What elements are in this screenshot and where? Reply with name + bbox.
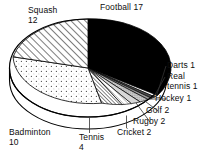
slice-label-badminton: Badminton 10 xyxy=(9,128,51,147)
slice-label-rugby: Rugby 2 xyxy=(133,117,165,127)
pie-chart: Football 17 Squash 12 Badminton 10 Tenni… xyxy=(0,0,211,161)
slice-label-darts: Darts 1 xyxy=(167,61,195,71)
slice-label-squash: Squash 12 xyxy=(28,6,57,25)
slice-label-football: Football 17 xyxy=(100,3,143,13)
slice-label-hockey: Hockey 1 xyxy=(155,94,191,104)
slice-label-golf: Golf 2 xyxy=(146,106,169,116)
slice-label-cricket: Cricket 2 xyxy=(117,128,151,138)
slice-label-real-tennis: Real tennis 1 xyxy=(167,72,198,91)
slice-label-tennis: Tennis 4 xyxy=(79,133,104,152)
